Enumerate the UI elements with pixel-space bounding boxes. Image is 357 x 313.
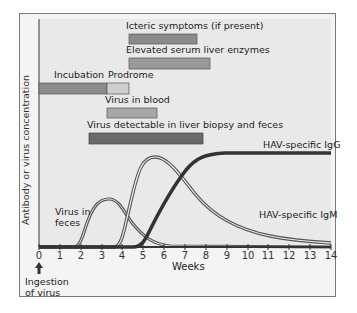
x-tick: 8 xyxy=(203,250,209,261)
x-tick: 6 xyxy=(161,250,167,261)
label-igg: HAV-specific IgG xyxy=(263,140,341,150)
label-prodrome: Prodrome xyxy=(108,70,154,80)
bar-enzymes xyxy=(129,58,210,69)
x-tick: 9 xyxy=(224,250,230,261)
label-incubation: Incubation xyxy=(54,70,104,80)
x-tick: 10 xyxy=(242,250,255,261)
bar-biopsy xyxy=(89,133,203,144)
label-icteric: Icteric symptoms (if present) xyxy=(126,21,264,31)
label-blood: Virus in blood xyxy=(105,95,170,105)
x-tick: 1 xyxy=(57,250,63,261)
label-enzymes: Elevated serum liver enzymes xyxy=(126,45,270,55)
label-igm: HAV-specific IgM xyxy=(259,210,337,220)
bar-blood xyxy=(107,108,157,118)
bar-prodrome xyxy=(107,83,129,94)
label-feces-1: Virus in xyxy=(55,207,91,217)
x-tick: 2 xyxy=(78,250,84,261)
arrow-up-icon xyxy=(35,262,43,274)
label-ingestion-2: of virus xyxy=(25,288,60,298)
y-axis-label: Antibody or virus concentration xyxy=(20,75,31,225)
x-tick: 4 xyxy=(119,250,125,261)
x-tick: 13 xyxy=(304,250,317,261)
x-tick: 5 xyxy=(140,250,146,261)
x-tick: 7 xyxy=(182,250,188,261)
x-tick: 11 xyxy=(262,250,275,261)
label-feces-2: feces xyxy=(55,218,80,228)
label-biopsy: Virus detectable in liver biopsy and fec… xyxy=(87,120,283,130)
bar-incubation xyxy=(39,83,107,94)
x-tick: 14 xyxy=(325,250,338,261)
label-ingestion-1: Ingestion xyxy=(25,277,69,287)
x-axis-label: Weeks xyxy=(172,262,205,272)
bar-icteric xyxy=(129,34,197,44)
x-tick: 12 xyxy=(283,250,296,261)
x-tick: 0 xyxy=(36,250,42,261)
x-tick: 3 xyxy=(99,250,105,261)
